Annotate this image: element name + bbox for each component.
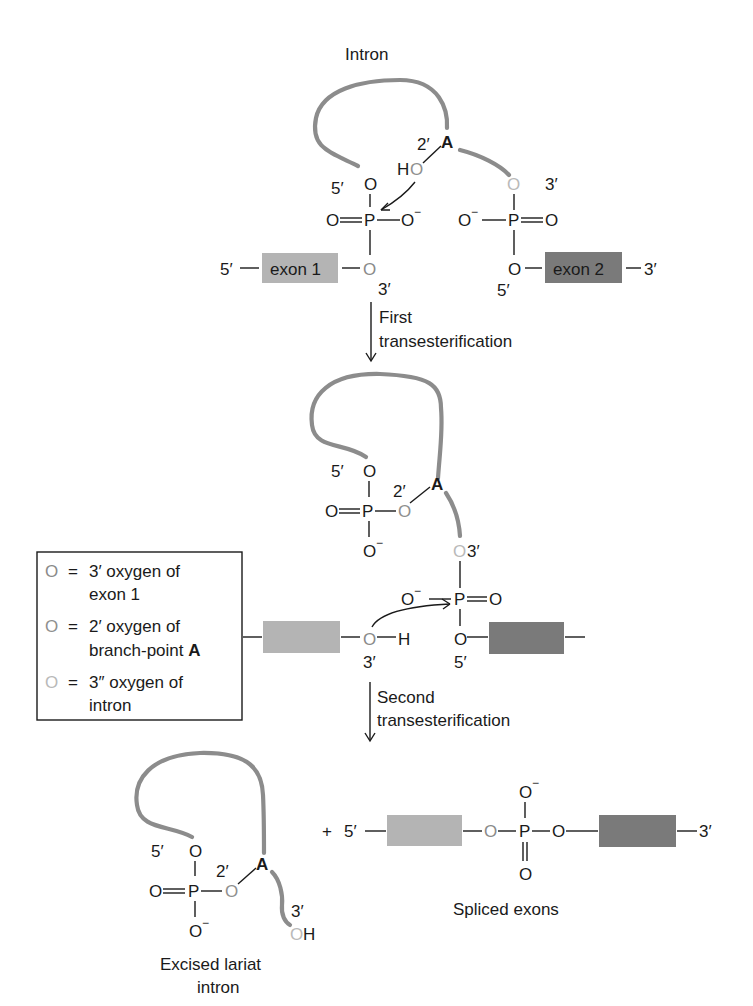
O-intron-3prime: O <box>453 542 466 561</box>
legend-text-2a: 2′ oxygen of <box>89 617 180 636</box>
OH-H: H <box>303 925 315 944</box>
O-minus: O <box>363 542 376 561</box>
OH-O: O <box>290 925 303 944</box>
step1-line1: First <box>379 308 412 327</box>
P: P <box>519 822 530 841</box>
label-3prime: 3′ <box>291 902 304 921</box>
exon2-box <box>489 622 564 654</box>
label-5prime-left: 5′ <box>331 179 344 198</box>
intron-strand-3prime <box>460 150 509 175</box>
label-5prime-right: 5′ <box>497 281 510 300</box>
step2-arrow: Second transesterification <box>365 682 510 741</box>
legend-symbol-exon1: O <box>45 562 58 581</box>
O-double-right: O <box>545 211 558 230</box>
label-2prime: 2′ <box>417 135 430 154</box>
stage2-intermediate: 5′ O 2′ A O P O O − O 3′ O − P O O 5′ O … <box>243 374 585 672</box>
end-5prime: 5′ <box>344 822 357 841</box>
O-double-left: O <box>326 211 339 230</box>
svg-text:−: − <box>471 205 478 219</box>
legend-text-3a: 3″ oxygen of <box>89 673 183 692</box>
exon2-label: exon 2 <box>553 260 604 279</box>
O-exon1-3prime: O <box>363 630 376 649</box>
label-3prime-bottom: 3′ <box>363 653 376 672</box>
O-top-left: O <box>364 175 377 194</box>
svg-text:−: − <box>376 536 383 550</box>
hydroxyl-O-branch: O <box>410 160 423 179</box>
svg-text:−: − <box>414 205 421 219</box>
exon1-box <box>263 621 340 653</box>
label-5prime: 5′ <box>331 462 344 481</box>
P: P <box>188 882 199 901</box>
svg-text:=: = <box>68 617 78 636</box>
label-5prime: 5′ <box>151 842 164 861</box>
O-minus-right: O <box>401 590 414 609</box>
O-left: O <box>484 822 497 841</box>
branch-point-A: A <box>256 855 268 874</box>
spliced-caption: Spliced exons <box>453 900 559 919</box>
P: P <box>362 502 373 521</box>
P-right: P <box>454 590 465 609</box>
legend-text-3b: intron <box>89 696 132 715</box>
svg-text:=: = <box>68 673 78 692</box>
legend-symbol-branch: O <box>45 617 58 636</box>
O-top: O <box>189 842 202 861</box>
branch-point-A: A <box>431 475 443 494</box>
step2-line2: transesterification <box>377 711 510 730</box>
O-double-bottom: O <box>519 865 532 884</box>
legend-symbol-intron: O <box>45 673 58 692</box>
P-left: P <box>364 211 375 230</box>
label-2prime: 2′ <box>393 482 406 501</box>
label-3prime-top: 3′ <box>467 542 480 561</box>
label-3prime-right: 3′ <box>545 175 558 194</box>
label-5prime-bottom: 5′ <box>454 653 467 672</box>
exon2-box <box>599 815 676 847</box>
H: H <box>398 630 410 649</box>
branch-point-A: A <box>441 133 453 152</box>
O-branch-2prime: O <box>225 882 238 901</box>
legend: O = 3′ oxygen of exon 1 O = 2′ oxygen of… <box>37 552 242 720</box>
O-top-right-intron3: O <box>507 175 520 194</box>
O-bottom-right: O <box>508 260 521 279</box>
exon1-box <box>387 815 462 846</box>
O-exon2: O <box>454 630 467 649</box>
legend-text-1b: exon 1 <box>89 585 140 604</box>
O-double: O <box>149 882 162 901</box>
lariat-caption-1: Excised lariat <box>160 955 261 974</box>
lariat-strand <box>136 753 264 853</box>
step1-arrow: First transesterification <box>366 302 512 361</box>
splicing-diagram: Intron A 2′ H O 5′ O O P O − O 3′ O 3′ O… <box>0 0 753 1006</box>
stage3-spliced-exons: 5′ O P O 3′ O − O Spliced exons <box>344 776 712 919</box>
label-2prime: 2′ <box>216 862 229 881</box>
O-double: O <box>325 502 338 521</box>
O-minus-top: O <box>519 783 532 802</box>
svg-text:−: − <box>202 916 209 930</box>
legend-text-1a: 3′ oxygen of <box>89 562 180 581</box>
legend-text-2b: branch-point A <box>89 641 201 660</box>
O-double-right: O <box>489 590 502 609</box>
label-3prime-left: 3′ <box>378 280 391 299</box>
svg-text:−: − <box>414 584 421 598</box>
P-right: P <box>508 211 519 230</box>
O-minus-left: O <box>401 211 414 230</box>
intron-label: Intron <box>345 45 388 64</box>
nucleophilic-attack-arrow-2 <box>372 604 450 627</box>
svg-text:−: − <box>532 776 539 790</box>
svg-text:=: = <box>68 562 78 581</box>
O-top: O <box>363 462 376 481</box>
hydroxyl-H: H <box>397 160 409 179</box>
lariat-caption-2: intron <box>197 978 240 997</box>
exon1-label: exon 1 <box>270 260 321 279</box>
O-minus-right: O <box>458 211 471 230</box>
plus-sign: + <box>322 822 332 841</box>
end-3prime: 3′ <box>699 822 712 841</box>
stage1-premrna: Intron A 2′ H O 5′ O O P O − O 3′ O 3′ O… <box>220 45 657 300</box>
O-branch-2prime: O <box>398 502 411 521</box>
stage3-lariat: 5′ O 2′ A O P O O − 3′ O H Excised laria… <box>136 753 315 997</box>
O-right: O <box>552 822 565 841</box>
end-5prime: 5′ <box>220 260 233 279</box>
O-bottom-left-exon1: O <box>363 260 376 279</box>
end-3prime: 3′ <box>644 260 657 279</box>
step1-line2: transesterification <box>379 332 512 351</box>
O-minus: O <box>189 922 202 941</box>
step2-line1: Second <box>377 688 435 707</box>
